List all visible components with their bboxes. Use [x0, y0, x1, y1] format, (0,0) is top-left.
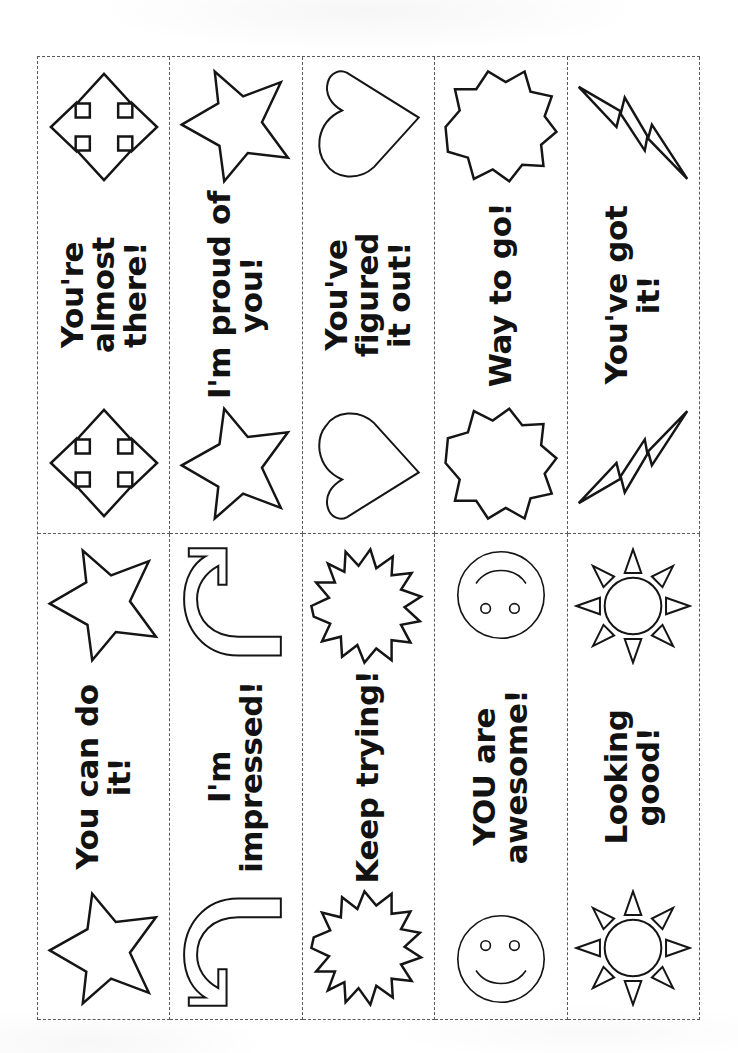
lightning-bolt-icon	[574, 68, 692, 186]
card-youve-got-it[interactable]: You've got it!	[568, 57, 700, 534]
star-icon	[177, 404, 295, 522]
card-content: I'm impressed!	[172, 541, 300, 1013]
card-im-proud-of-you[interactable]: I'm proud of you!	[170, 57, 302, 534]
card-label: I'm proud of you!	[204, 186, 267, 404]
card-label: You can do it!	[72, 665, 135, 889]
card-content: YOU are awesome!	[437, 541, 565, 1013]
card-youve-figured-it-out[interactable]: You've figured it out!	[303, 57, 435, 534]
star-icon	[177, 68, 295, 186]
heart-icon	[309, 404, 427, 522]
smiley-face-icon	[453, 911, 549, 1007]
starburst-icon	[442, 404, 560, 522]
explosion-icon	[309, 547, 427, 665]
smiley-face-icon	[453, 547, 549, 643]
four-way-arrow-icon	[45, 68, 163, 186]
card-you-are-awesome[interactable]: YOU are awesome!	[435, 534, 567, 1020]
card-label: You've got it!	[602, 186, 665, 404]
card-content: Looking good!	[569, 541, 697, 1013]
card-im-impressed[interactable]: I'm impressed!	[170, 534, 302, 1020]
card-content: You've figured it out!	[304, 62, 432, 528]
card-content: You've got it!	[569, 62, 697, 528]
cards-grid: You're almost there! I'm proud of you! Y…	[37, 56, 700, 1020]
star-icon	[45, 889, 163, 1007]
curved-arrow-icon	[177, 889, 295, 1007]
starburst-icon	[442, 68, 560, 186]
card-label: YOU are awesome!	[469, 643, 532, 911]
card-keep-trying[interactable]: Keep trying!	[303, 534, 435, 1020]
explosion-icon	[309, 889, 427, 1007]
card-label: Keep trying!	[353, 665, 385, 889]
card-content: Way to go!	[437, 62, 565, 528]
star-icon	[45, 547, 163, 665]
card-you-can-do-it[interactable]: You can do it!	[38, 534, 170, 1020]
lightning-bolt-icon	[574, 404, 692, 522]
card-label: You've figured it out!	[321, 186, 416, 404]
card-label: Way to go!	[485, 186, 517, 404]
heart-icon	[309, 68, 427, 186]
four-way-arrow-icon	[45, 404, 163, 522]
card-looking-good[interactable]: Looking good!	[568, 534, 700, 1020]
card-content: You can do it!	[40, 541, 168, 1013]
card-label: You're almost there!	[56, 186, 151, 404]
card-way-to-go[interactable]: Way to go!	[435, 57, 567, 534]
curved-arrow-icon	[177, 547, 295, 665]
sun-icon	[574, 889, 692, 1007]
card-content: I'm proud of you!	[172, 62, 300, 528]
sun-icon	[574, 547, 692, 665]
card-label: I'm impressed!	[204, 665, 267, 889]
card-content: Keep trying!	[304, 541, 432, 1013]
card-youre-almost-there[interactable]: You're almost there!	[38, 57, 170, 534]
card-content: You're almost there!	[40, 62, 168, 528]
card-label: Looking good!	[602, 665, 665, 889]
